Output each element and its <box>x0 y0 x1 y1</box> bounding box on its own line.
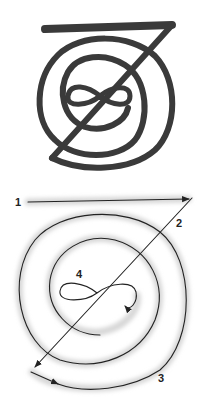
stroke-4-figure-eight <box>60 283 136 308</box>
symbol-drawing <box>40 25 173 168</box>
step-label-2: 2 <box>176 217 182 229</box>
step-label-3: 3 <box>158 372 164 384</box>
stroke-order-diagram: 1 2 3 4 <box>0 0 205 407</box>
step-label-1: 1 <box>15 196 21 208</box>
symbol-horizontal-bar <box>45 25 172 29</box>
step-label-4: 4 <box>76 268 83 280</box>
